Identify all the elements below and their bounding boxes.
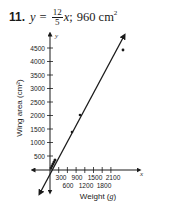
data-point: [54, 159, 57, 162]
y-tick-label: 500: [34, 153, 45, 160]
x-axis-title: Weight (g): [80, 192, 117, 201]
y-axis-title: Wing area (cm²): [15, 79, 24, 137]
x-tick-label: 1800: [97, 182, 112, 189]
x-tick-label: 2100: [106, 174, 121, 181]
x-tick-label: 300: [55, 174, 66, 181]
y-tick-label: 1500: [30, 126, 45, 133]
y-tick-label: 3000: [30, 85, 45, 92]
x-tick-label: 1500: [88, 174, 103, 181]
y-tick-label: 4500: [30, 45, 45, 52]
y-tick-label: 2000: [30, 112, 45, 119]
fit-line: [40, 36, 124, 193]
x-tick-label: 900: [71, 174, 82, 181]
x-axis-variable: x: [139, 170, 144, 178]
data-point: [122, 49, 125, 52]
scatter-chart: y x 300 900 1500 2100 600 1200 1800 4500…: [0, 0, 180, 211]
x-tick-label: 1200: [79, 182, 94, 189]
data-points: [50, 49, 125, 170]
y-tick-label: 4000: [30, 58, 45, 65]
y-tick-label: 1000: [30, 139, 45, 146]
y-axis-variable: y: [54, 32, 59, 40]
data-point: [79, 114, 82, 117]
x-tick-label: 600: [62, 182, 73, 189]
data-point: [71, 131, 74, 134]
y-tick-label: 2500: [30, 99, 45, 106]
y-tick-label: 3500: [30, 72, 45, 79]
